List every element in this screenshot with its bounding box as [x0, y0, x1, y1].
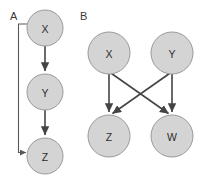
node-a-x-label: X — [41, 23, 48, 35]
node-a-x[interactable]: X — [27, 10, 63, 46]
node-a-z-label: Z — [42, 151, 49, 163]
node-b-z[interactable]: Z — [88, 115, 130, 157]
panel-a-label: A — [10, 10, 18, 22]
node-a-z[interactable]: Z — [27, 138, 63, 174]
node-b-z-label: Z — [106, 131, 113, 143]
node-b-w[interactable]: W — [151, 115, 193, 157]
node-b-y[interactable]: Y — [151, 32, 193, 74]
panel-b: B X Y Z — [80, 10, 193, 157]
node-a-y-label: Y — [41, 87, 48, 99]
graph-canvas: A X Y Z B — [0, 0, 201, 185]
node-b-x-label: X — [105, 48, 112, 60]
panel-a: A X Y Z — [10, 10, 63, 174]
node-b-y-label: Y — [168, 48, 175, 60]
node-a-y[interactable]: Y — [27, 74, 63, 110]
panel-b-label: B — [80, 10, 87, 22]
node-b-x[interactable]: X — [88, 32, 130, 74]
figure-container: A X Y Z B — [0, 0, 201, 185]
node-b-w-label: W — [167, 131, 177, 143]
